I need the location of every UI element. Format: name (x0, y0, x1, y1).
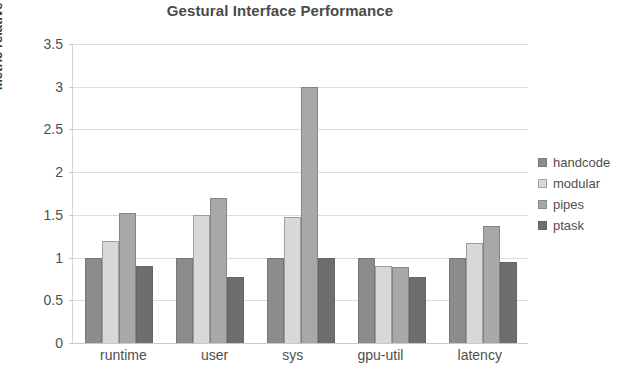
y-axis-tick-label: 3 (3, 79, 63, 95)
bar-ptask-sys (318, 258, 335, 343)
bar-handcode-latency (449, 258, 466, 343)
legend-label: modular (553, 176, 600, 191)
x-axis-tick-label: sys (282, 347, 303, 363)
bar-pipes-latency (483, 226, 500, 343)
legend-item-pipes[interactable]: pipes (538, 194, 638, 215)
bar-group (267, 44, 335, 343)
bar-pipes-runtime (119, 213, 136, 343)
gridline (73, 343, 528, 344)
bar-handcode-runtime (85, 258, 102, 343)
legend-swatch-icon (538, 179, 547, 188)
x-axis-tick-label: user (201, 347, 228, 363)
bar-pipes-gpu-util (392, 267, 409, 343)
bar-groups-layer (74, 44, 528, 343)
bar-handcode-sys (267, 258, 284, 343)
bar-modular-runtime (102, 241, 119, 344)
x-axis-labels: runtimeusersysgpu-utillatency (73, 347, 529, 371)
bar-modular-gpu-util (375, 266, 392, 343)
bar-group (449, 44, 517, 343)
bar-group (85, 44, 153, 343)
bar-ptask-runtime (136, 266, 153, 343)
bar-modular-user (193, 215, 210, 343)
y-axis-tick-label: 0.5 (3, 292, 63, 308)
y-axis-tick-label: 3.5 (3, 36, 63, 52)
bar-ptask-latency (500, 262, 517, 343)
y-axis-tick (69, 215, 73, 216)
chart-legend: handcodemodularpipesptask (538, 152, 638, 236)
legend-swatch-icon (538, 158, 547, 167)
chart-title: Gestural Interface Performance (0, 2, 560, 19)
bar-ptask-user (227, 277, 244, 343)
bar-modular-sys (284, 217, 301, 343)
y-axis-tick-label: 0 (3, 335, 63, 351)
bar-group (358, 44, 426, 343)
x-axis-tick-label: gpu-util (357, 347, 403, 363)
legend-swatch-icon (538, 221, 547, 230)
bar-handcode-gpu-util (358, 258, 375, 343)
y-axis-tick (69, 172, 73, 173)
y-axis-tick-label: 2 (3, 164, 63, 180)
legend-swatch-icon (538, 200, 547, 209)
y-axis-tick (69, 44, 73, 45)
y-axis-tick (69, 258, 73, 259)
y-axis-tick (69, 300, 73, 301)
bar-modular-latency (466, 243, 483, 343)
y-axis-tick-label: 1.5 (3, 207, 63, 223)
x-axis-tick-label: runtime (100, 347, 147, 363)
legend-item-handcode[interactable]: handcode (538, 152, 638, 173)
plot-area (72, 44, 528, 343)
chart-container: Gestural Interface Performance Metric re… (0, 0, 643, 372)
y-axis-tick-label: 2.5 (3, 121, 63, 137)
x-axis-tick-label: latency (458, 347, 502, 363)
bar-pipes-user (210, 198, 227, 343)
bar-handcode-user (176, 258, 193, 343)
bar-pipes-sys (301, 87, 318, 343)
bar-group (176, 44, 244, 343)
legend-item-modular[interactable]: modular (538, 173, 638, 194)
legend-label: handcode (553, 155, 610, 170)
legend-label: ptask (553, 218, 584, 233)
y-axis-tick (69, 87, 73, 88)
legend-label: pipes (553, 197, 584, 212)
y-axis-tick (69, 343, 73, 344)
y-axis-tick-label: 1 (3, 250, 63, 266)
bar-ptask-gpu-util (409, 277, 426, 343)
y-axis-tick (69, 129, 73, 130)
legend-item-ptask[interactable]: ptask (538, 215, 638, 236)
